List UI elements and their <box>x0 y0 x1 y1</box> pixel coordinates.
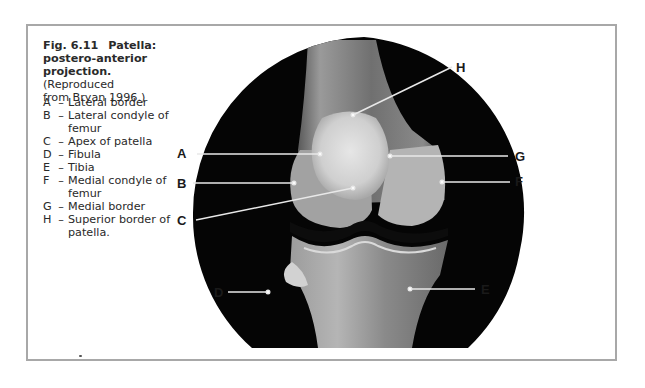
leader-dot-e <box>408 287 412 291</box>
leader-dot-g <box>388 154 392 158</box>
knee-xray-image <box>0 0 645 388</box>
leader-dot-b <box>292 181 296 185</box>
leader-dot-d <box>266 290 270 294</box>
image-label-d: D <box>214 285 223 300</box>
image-label-a: A <box>177 146 186 161</box>
leader-dot-f <box>440 180 444 184</box>
leader-dot-a <box>318 152 322 156</box>
image-label-h: H <box>456 60 465 75</box>
image-label-g: G <box>515 149 525 164</box>
image-label-c: C <box>177 213 186 228</box>
xray-circle <box>180 30 530 360</box>
image-label-f: F <box>515 174 523 189</box>
image-label-e: E <box>481 282 490 297</box>
leader-dot-c <box>351 186 355 190</box>
print-speck <box>79 355 82 357</box>
image-label-b: B <box>177 176 186 191</box>
leader-dot-h <box>351 113 355 117</box>
